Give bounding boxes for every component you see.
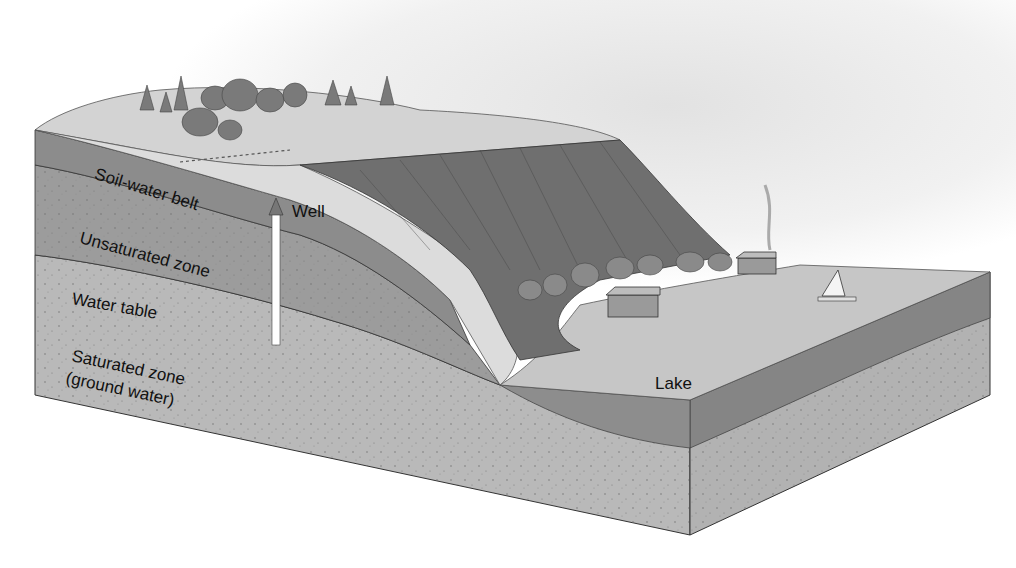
label-lake: Lake <box>655 374 692 394</box>
groundwater-block-diagram: Soil-water belt Unsaturated zone Water t… <box>0 0 1016 568</box>
well-pipe <box>272 213 280 345</box>
label-well: Well <box>292 202 325 222</box>
house-back <box>736 252 776 274</box>
house-front <box>606 287 660 317</box>
diagram-illustration <box>0 0 1016 568</box>
